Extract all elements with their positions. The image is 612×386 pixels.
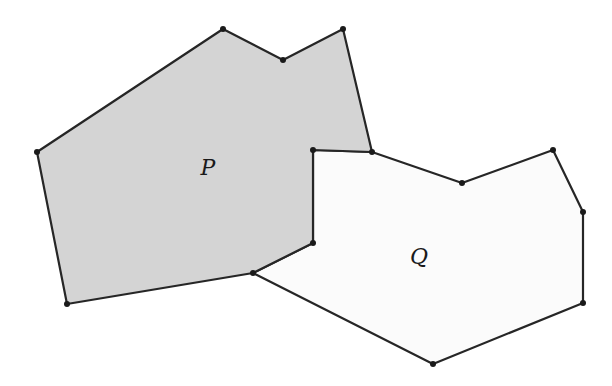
vertex-dot xyxy=(310,147,316,153)
vertex-dot xyxy=(430,361,436,367)
vertex-dot xyxy=(550,147,556,153)
diagram-svg: P Q xyxy=(0,0,612,386)
vertex-dot xyxy=(310,240,316,246)
label-p: P xyxy=(200,155,217,180)
vertex-dot xyxy=(220,26,226,32)
vertex-dot xyxy=(250,270,256,276)
vertex-dot xyxy=(580,209,586,215)
vertex-dot xyxy=(64,301,70,307)
vertex-dot xyxy=(459,180,465,186)
vertex-dot xyxy=(34,149,40,155)
label-q: Q xyxy=(410,244,428,269)
vertex-dot xyxy=(369,149,375,155)
vertex-dot xyxy=(340,26,346,32)
vertex-dot xyxy=(580,300,586,306)
polygon-diagram: P Q xyxy=(0,0,612,386)
vertex-dot xyxy=(280,57,286,63)
